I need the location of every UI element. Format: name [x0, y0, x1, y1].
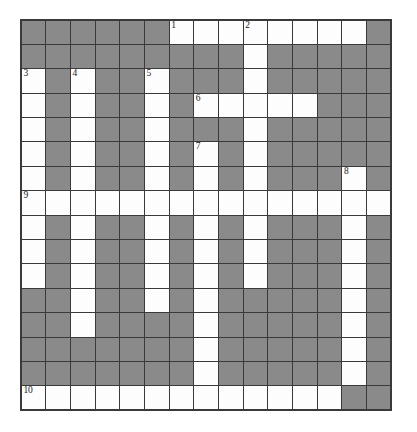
open-cell[interactable] [70, 215, 95, 239]
open-cell[interactable] [95, 191, 120, 215]
open-cell[interactable]: 2 [243, 20, 268, 44]
open-cell[interactable] [70, 166, 95, 190]
open-cell[interactable] [317, 20, 342, 44]
open-cell[interactable] [70, 191, 95, 215]
open-cell[interactable] [243, 240, 268, 264]
open-cell[interactable] [194, 288, 219, 312]
open-cell[interactable] [194, 20, 219, 44]
open-cell[interactable]: 6 [194, 93, 219, 117]
open-cell[interactable] [268, 386, 293, 410]
open-cell[interactable]: 3 [21, 69, 46, 93]
open-cell[interactable] [342, 313, 367, 337]
open-cell[interactable] [317, 386, 342, 410]
blocked-cell [70, 20, 95, 44]
open-cell[interactable] [194, 313, 219, 337]
open-cell[interactable] [293, 93, 318, 117]
open-cell[interactable]: 1 [169, 20, 194, 44]
open-cell[interactable] [70, 93, 95, 117]
open-cell[interactable] [268, 20, 293, 44]
open-cell[interactable] [70, 288, 95, 312]
open-cell[interactable] [21, 93, 46, 117]
crossword-row: 8 [21, 166, 391, 190]
open-cell[interactable] [21, 215, 46, 239]
crossword-grid[interactable]: 12345678910 [20, 19, 392, 411]
open-cell[interactable]: 7 [194, 142, 219, 166]
open-cell[interactable] [317, 191, 342, 215]
open-cell[interactable] [219, 20, 244, 44]
open-cell[interactable] [144, 93, 169, 117]
open-cell[interactable] [293, 191, 318, 215]
open-cell[interactable] [342, 288, 367, 312]
open-cell[interactable] [194, 386, 219, 410]
open-cell[interactable] [120, 386, 145, 410]
open-cell[interactable]: 10 [21, 386, 46, 410]
blocked-cell [317, 166, 342, 190]
open-cell[interactable] [169, 191, 194, 215]
open-cell[interactable] [95, 386, 120, 410]
open-cell[interactable] [243, 191, 268, 215]
open-cell[interactable] [144, 288, 169, 312]
blocked-cell [219, 166, 244, 190]
open-cell[interactable] [169, 386, 194, 410]
open-cell[interactable] [144, 240, 169, 264]
open-cell[interactable] [268, 93, 293, 117]
open-cell[interactable] [243, 118, 268, 142]
open-cell[interactable] [194, 166, 219, 190]
open-cell[interactable] [243, 264, 268, 288]
open-cell[interactable] [243, 93, 268, 117]
open-cell[interactable] [70, 264, 95, 288]
open-cell[interactable] [293, 20, 318, 44]
open-cell[interactable] [342, 240, 367, 264]
open-cell[interactable]: 9 [21, 191, 46, 215]
open-cell[interactable] [21, 240, 46, 264]
open-cell[interactable] [243, 166, 268, 190]
open-cell[interactable] [194, 240, 219, 264]
open-cell[interactable] [367, 191, 392, 215]
open-cell[interactable] [144, 215, 169, 239]
open-cell[interactable] [144, 386, 169, 410]
open-cell[interactable]: 5 [144, 69, 169, 93]
open-cell[interactable] [243, 386, 268, 410]
open-cell[interactable] [243, 69, 268, 93]
open-cell[interactable] [342, 20, 367, 44]
open-cell[interactable] [120, 191, 145, 215]
open-cell[interactable] [243, 142, 268, 166]
open-cell[interactable] [194, 215, 219, 239]
open-cell[interactable] [243, 44, 268, 68]
open-cell[interactable]: 8 [342, 166, 367, 190]
open-cell[interactable] [21, 166, 46, 190]
open-cell[interactable] [70, 240, 95, 264]
open-cell[interactable] [144, 142, 169, 166]
open-cell[interactable] [194, 361, 219, 385]
open-cell[interactable] [268, 191, 293, 215]
open-cell[interactable] [144, 191, 169, 215]
open-cell[interactable] [194, 264, 219, 288]
open-cell[interactable]: 4 [70, 69, 95, 93]
open-cell[interactable] [219, 386, 244, 410]
open-cell[interactable] [342, 191, 367, 215]
open-cell[interactable] [21, 118, 46, 142]
open-cell[interactable] [21, 264, 46, 288]
open-cell[interactable] [144, 118, 169, 142]
open-cell[interactable] [70, 313, 95, 337]
open-cell[interactable] [342, 361, 367, 385]
open-cell[interactable] [70, 142, 95, 166]
crossword-grid-body: 12345678910 [21, 20, 391, 410]
open-cell[interactable] [21, 142, 46, 166]
open-cell[interactable] [243, 215, 268, 239]
blocked-cell [268, 44, 293, 68]
open-cell[interactable] [342, 264, 367, 288]
open-cell[interactable] [342, 215, 367, 239]
open-cell[interactable] [293, 386, 318, 410]
open-cell[interactable] [342, 337, 367, 361]
open-cell[interactable] [144, 166, 169, 190]
open-cell[interactable] [46, 386, 71, 410]
open-cell[interactable] [144, 264, 169, 288]
open-cell[interactable] [194, 191, 219, 215]
open-cell[interactable] [46, 191, 71, 215]
open-cell[interactable] [194, 337, 219, 361]
open-cell[interactable] [70, 386, 95, 410]
open-cell[interactable] [219, 191, 244, 215]
open-cell[interactable] [219, 93, 244, 117]
open-cell[interactable] [70, 118, 95, 142]
